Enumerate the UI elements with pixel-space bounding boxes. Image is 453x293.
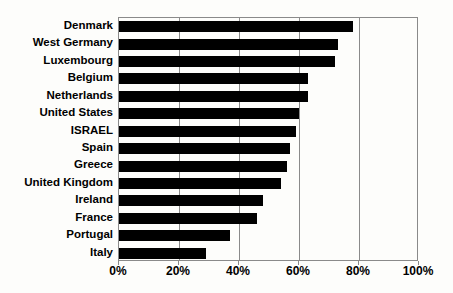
category-label: United States: [40, 104, 114, 121]
bar[interactable]: [119, 230, 230, 241]
x-tick-mark: [418, 261, 419, 265]
x-tick-label: 40%: [226, 264, 250, 278]
plot-area: [118, 17, 418, 261]
bar[interactable]: [119, 91, 308, 102]
category-label: Luxembourg: [43, 52, 113, 69]
bar[interactable]: [119, 126, 296, 137]
bar-chart-figure: DenmarkWest GermanyLuxembourgBelgiumNeth…: [0, 0, 453, 293]
bar-row[interactable]: [119, 210, 417, 227]
x-tick-mark: [298, 261, 299, 265]
bar[interactable]: [119, 108, 299, 119]
category-label: Greece: [74, 156, 113, 173]
x-axis-tick-labels: 0%20%40%60%80%100%: [118, 264, 418, 284]
bar-row[interactable]: [119, 53, 417, 70]
category-label: Ireland: [75, 191, 113, 208]
category-axis-labels: DenmarkWest GermanyLuxembourgBelgiumNeth…: [0, 17, 116, 261]
bar-row[interactable]: [119, 227, 417, 244]
bar-rows: [119, 18, 417, 260]
category-label: ISRAEL: [71, 122, 113, 139]
bar-row[interactable]: [119, 70, 417, 87]
bar[interactable]: [119, 73, 308, 84]
category-label: France: [75, 209, 113, 226]
bar-row[interactable]: [119, 175, 417, 192]
x-tick-mark: [118, 261, 119, 265]
bar[interactable]: [119, 56, 335, 67]
bar-row[interactable]: [119, 105, 417, 122]
category-label: Italy: [90, 244, 113, 261]
bar-row[interactable]: [119, 88, 417, 105]
bar[interactable]: [119, 248, 206, 259]
x-tick-mark: [238, 261, 239, 265]
bar[interactable]: [119, 143, 290, 154]
x-tick-label: 60%: [286, 264, 310, 278]
category-label: Netherlands: [47, 87, 113, 104]
bar[interactable]: [119, 39, 338, 50]
x-tick-mark: [178, 261, 179, 265]
category-label: Belgium: [68, 69, 113, 86]
x-tick-label: 80%: [346, 264, 370, 278]
bar[interactable]: [119, 213, 257, 224]
x-tick-mark: [358, 261, 359, 265]
x-tick-label: 100%: [403, 264, 434, 278]
bar-row[interactable]: [119, 140, 417, 157]
bar[interactable]: [119, 195, 263, 206]
category-label: United Kingdom: [24, 174, 113, 191]
x-tick-label: 20%: [166, 264, 190, 278]
bar[interactable]: [119, 178, 281, 189]
bar-row[interactable]: [119, 157, 417, 174]
bar-row[interactable]: [119, 245, 417, 262]
bar-row[interactable]: [119, 35, 417, 52]
category-label: Denmark: [64, 17, 113, 34]
x-tick-label: 0%: [109, 264, 126, 278]
bar-row[interactable]: [119, 123, 417, 140]
bar[interactable]: [119, 21, 353, 32]
bar-row[interactable]: [119, 192, 417, 209]
bar[interactable]: [119, 161, 287, 172]
bar-row[interactable]: [119, 18, 417, 35]
category-label: West Germany: [33, 34, 113, 51]
category-label: Portugal: [66, 226, 113, 243]
category-label: Spain: [82, 139, 113, 156]
